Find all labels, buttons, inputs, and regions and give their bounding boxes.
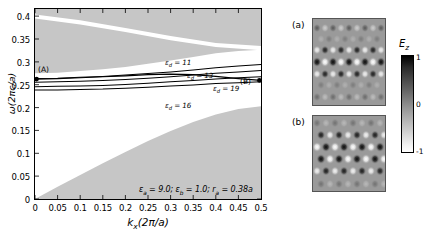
colorbar-title-text: Ez [399,38,409,49]
x-axis-label-text: kx(2π/a) [127,216,169,228]
curve-label-eps-d-11: εd = 11 [165,58,191,68]
curve-label-eps-d-16-text: εd = 16 [165,101,191,110]
band-structure-plot: εd = 11 εd = 13 εd = 19 εd = 16 (A) (B) … [34,8,262,200]
y-axis-label-text: ω(2πc/a) [6,73,17,114]
curve-label-eps-d-13: εd = 13 [187,71,213,81]
y-tick-4: 0.2 [17,104,30,114]
y-tick-0: 0 [25,195,30,205]
field-map-b-svg [313,116,385,191]
colorbar-wrap: 1 0 -1 [401,55,415,153]
upper-continuum-region [35,9,261,73]
field-map-a-svg [313,19,385,105]
parameters-text: εa = 9.0; εb = 1.0; ra = 0.38a [139,185,253,194]
panel-a-tag: (a) [292,20,305,30]
band-structure-svg [35,9,261,199]
x-tick-10: 0.5 [255,203,268,213]
x-tick-3: 0.15 [94,203,112,213]
curve-eps-d-13 [35,71,261,83]
panel-b-tag: (b) [292,117,305,127]
x-tick-4: 0.2 [119,203,132,213]
point-A-label: (A) [38,65,49,74]
x-axis-tick-labels: 0 0.05 0.1 0.15 0.2 0.25 0.3 0.35 0.4 0.… [34,203,262,215]
x-axis-label: kx(2π/a) [34,216,262,231]
field-map-panel-a [312,18,386,106]
colorbar-tick-mid: 0 [416,100,421,109]
figure-root: 0 0.05 0.1 0.15 0.2 0.25 0.3 0.35 0.4 ω(… [0,0,435,244]
y-axis-label: ω(2πc/a) [6,9,17,179]
x-tick-9: 0.45 [229,203,247,213]
x-tick-0: 0 [32,203,37,213]
x-tick-1: 0.05 [49,203,67,213]
x-tick-6: 0.3 [164,203,177,213]
point-A-marker [35,77,39,82]
x-tick-5: 0.25 [139,203,157,213]
field-map-panel-b [312,115,386,192]
parameters-annotation: εa = 9.0; εb = 1.0; ra = 0.38a [139,185,253,196]
curve-label-eps-d-19-text: εd = 19 [213,84,239,93]
colorbar-gradient [401,55,414,153]
y-tick-2: 0.1 [17,149,30,159]
colorbar-tick-max: 1 [416,53,421,62]
curve-label-eps-d-16: εd = 16 [165,101,191,111]
y-tick-6: 0.3 [17,58,30,68]
curve-label-eps-d-19: εd = 19 [213,84,239,94]
band-structure-panel: εd = 11 εd = 13 εd = 19 εd = 16 (A) (B) … [34,8,262,200]
x-tick-7: 0.35 [184,203,202,213]
x-tick-8: 0.4 [209,203,222,213]
point-B-label: (B) [240,77,251,86]
y-tick-8: 0.4 [17,12,30,22]
curve-label-eps-d-11-text: εd = 11 [165,58,191,67]
colorbar-title: Ez [399,38,409,52]
colorbar-tick-min: -1 [416,147,423,156]
x-tick-2: 0.1 [74,203,87,213]
curve-label-eps-d-13-text: εd = 13 [187,71,213,80]
